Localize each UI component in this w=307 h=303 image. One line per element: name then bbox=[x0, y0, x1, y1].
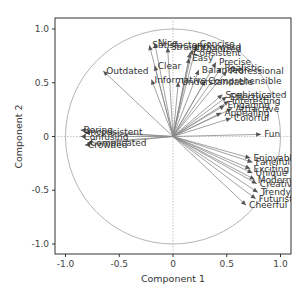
y-tick-label: -1.0 bbox=[31, 239, 49, 249]
vector-label: Clear bbox=[158, 61, 182, 71]
pca-biplot: NiceSatisfactoryStraightforwardConciseOr… bbox=[0, 0, 307, 303]
x-axis-label: Component 1 bbox=[141, 273, 205, 284]
x-tick-label: 0.5 bbox=[220, 259, 234, 269]
x-tick-label: -0.5 bbox=[110, 259, 128, 269]
vector-label: Outdated bbox=[106, 66, 148, 76]
x-tick-label: 0 bbox=[170, 259, 176, 269]
vector-label: Fun bbox=[264, 129, 280, 139]
y-axis-ticks: 1.00.50-0.5-1.0 bbox=[31, 24, 55, 249]
y-tick-label: 1.0 bbox=[35, 24, 50, 34]
vector-label: Colorful bbox=[234, 113, 269, 123]
vector-label: Comprehensible bbox=[208, 76, 282, 86]
y-tick-label: -0.5 bbox=[31, 185, 49, 195]
vector-label: Easy bbox=[192, 53, 214, 63]
y-axis-label: Component 2 bbox=[13, 104, 24, 168]
vector-label: Cheerful bbox=[249, 200, 287, 210]
vector-label: Professional bbox=[230, 66, 284, 76]
x-tick-label: 1.0 bbox=[273, 259, 288, 269]
x-tick-label: -1.0 bbox=[57, 259, 75, 269]
y-tick-label: 0.5 bbox=[35, 78, 49, 88]
x-axis-ticks: -1.0-0.500.51.0 bbox=[57, 254, 288, 269]
vector-label: Crowded bbox=[88, 140, 128, 150]
y-tick-label: 0 bbox=[43, 132, 49, 142]
